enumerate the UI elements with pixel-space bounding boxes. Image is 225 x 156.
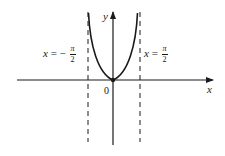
asymptote-right-label: x = π 2 <box>144 45 168 64</box>
asymptote-left-label: x = − π 2 <box>43 45 76 64</box>
origin-label: 0 <box>104 86 109 96</box>
fraction-denominator: 2 <box>163 55 167 64</box>
asymptote-left-var: x <box>43 47 48 59</box>
asymptote-right-eq: = <box>152 47 158 59</box>
asymptote-left-sign: − <box>60 47 66 59</box>
x-axis-label: x <box>207 84 212 95</box>
fraction-numerator: π <box>162 45 168 55</box>
fraction-numerator: π <box>70 45 76 55</box>
y-axis-label: y <box>103 11 108 22</box>
asymptote-left-fraction: π 2 <box>70 45 76 64</box>
asymptote-right-fraction: π 2 <box>162 45 168 64</box>
asymptote-left-eq: = <box>51 47 57 59</box>
asymptote-right-var: x <box>144 47 149 59</box>
fraction-denominator: 2 <box>71 55 75 64</box>
graph-canvas <box>0 0 225 156</box>
origin-point <box>111 78 115 82</box>
function-graph: y x 0 x = − π 2 x = π 2 <box>0 0 225 156</box>
